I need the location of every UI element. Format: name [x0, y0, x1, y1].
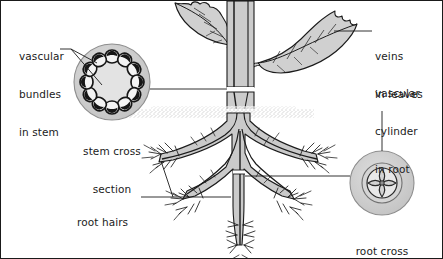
label-root-hairs: root hairs [77, 191, 128, 254]
label-line: vascular [375, 87, 420, 100]
root-cut-mark [233, 170, 245, 174]
label-line: in stem [19, 126, 64, 139]
stem-cut-mark [227, 87, 254, 92]
label-line: stem cross [75, 145, 149, 158]
label-vascular-cylinder-in-root: vascular cylinder in root [375, 62, 420, 201]
label-line: bundles [19, 88, 64, 101]
label-line: root hairs [77, 216, 128, 229]
label-line: veins [375, 50, 423, 63]
label-line: root cross [341, 245, 423, 258]
label-line: cylinder [375, 125, 420, 138]
leaf-left [175, 2, 230, 45]
label-line: vascular [19, 50, 64, 63]
leaf-right [258, 11, 357, 73]
plant-vascular-diagram: vascular bundles in stem stem cross sect… [0, 0, 443, 259]
label-vascular-bundles-in-stem: vascular bundles in stem [19, 25, 64, 164]
stem-upper [227, 1, 254, 87]
soil-line [129, 106, 314, 118]
label-root-cross-section: root cross section [341, 220, 423, 259]
label-line: in root [375, 163, 420, 176]
root-system [142, 113, 337, 259]
stem-cross-section-circle [74, 44, 150, 120]
